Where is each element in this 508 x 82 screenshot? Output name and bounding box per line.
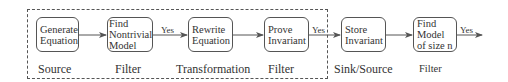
edge-label-yes: Yes <box>161 25 174 35</box>
role-label-filter: Filter <box>419 63 442 74</box>
node-line: Equation <box>40 35 75 46</box>
node-rewrite-equation: Rewrite Equation <box>188 17 233 52</box>
node-find-model-size-n: Find Model of size n <box>413 17 457 52</box>
node-line: Nontrivial <box>109 29 149 40</box>
node-line: Find <box>417 18 453 29</box>
node-line: Rewrite <box>192 24 229 35</box>
node-line: Invariant <box>268 35 305 46</box>
node-line: Model <box>109 40 149 51</box>
node-line: Find <box>109 18 149 29</box>
node-line: Generate <box>40 24 75 35</box>
role-label-filter: Filter <box>115 62 141 77</box>
node-prove-invariant: Prove Invariant <box>264 17 309 52</box>
edge-label-yes: Yes <box>460 25 473 35</box>
role-label-transformation: Transformation <box>176 62 250 77</box>
role-label-source: Source <box>38 62 71 77</box>
node-line: Model <box>417 29 453 40</box>
node-line: Store <box>345 24 382 35</box>
node-line: Equation <box>192 35 229 46</box>
node-line: of size n <box>417 40 453 51</box>
node-line: Invariant <box>345 35 382 46</box>
role-label-sink-source: Sink/Source <box>334 62 393 77</box>
node-find-nontrivial-model: Find Nontrivial Model <box>107 17 153 52</box>
node-generate-equation: Generate Equation <box>36 17 79 52</box>
role-label-filter: Filter <box>268 62 294 77</box>
edge-label-yes: Yes <box>312 25 325 35</box>
node-line: Prove <box>268 24 305 35</box>
node-store-invariant: Store Invariant <box>341 17 386 52</box>
